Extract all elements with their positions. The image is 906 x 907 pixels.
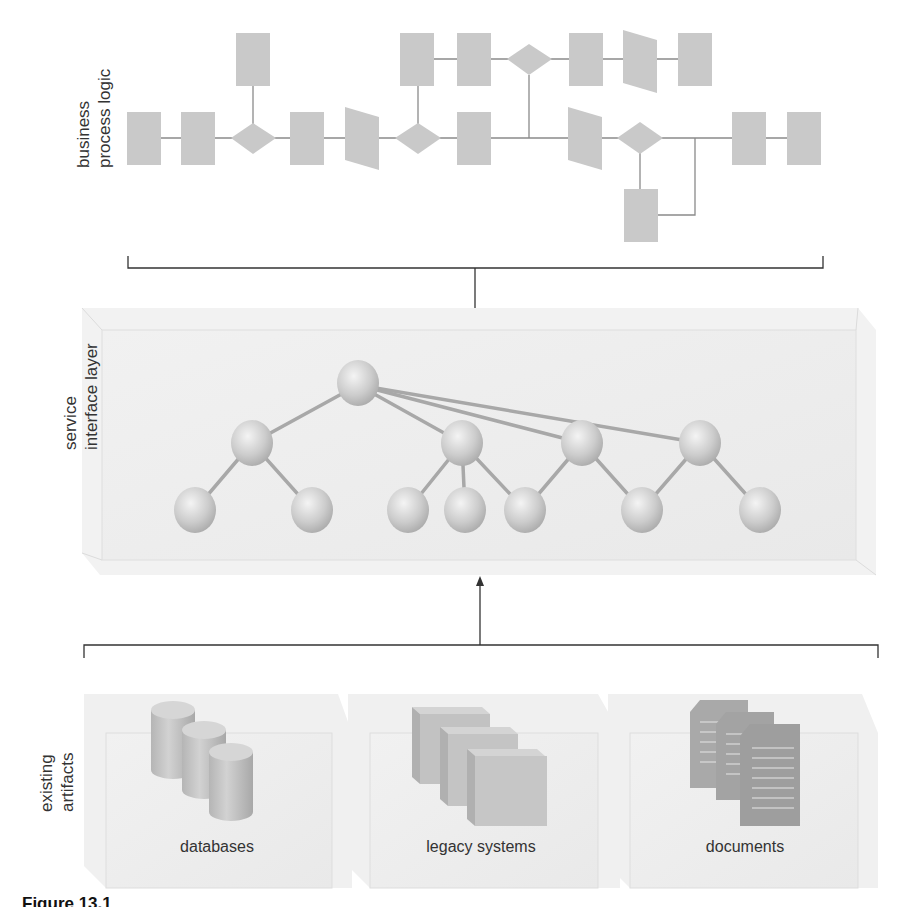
manual-input-step bbox=[568, 107, 602, 170]
service-node bbox=[441, 420, 483, 466]
service-node bbox=[174, 487, 216, 533]
process-step bbox=[290, 112, 324, 165]
process-step bbox=[624, 189, 658, 242]
business-process-flowchart: business process logic bbox=[74, 30, 821, 242]
manual-input-step bbox=[623, 30, 657, 93]
process-step bbox=[678, 33, 712, 86]
process-step bbox=[787, 112, 821, 165]
decision-diamond bbox=[507, 44, 552, 75]
service-node bbox=[739, 487, 781, 533]
artifact-label-legacy: legacy systems bbox=[426, 838, 535, 855]
bracket-from-artifacts bbox=[84, 584, 878, 658]
process-step bbox=[236, 33, 270, 86]
service-node bbox=[561, 420, 603, 466]
process-step bbox=[457, 112, 491, 165]
artifact-label-databases: databases bbox=[180, 838, 254, 855]
decision-diamond bbox=[395, 123, 441, 154]
decision-diamond bbox=[231, 123, 276, 154]
manual-input-step bbox=[345, 107, 379, 170]
service-node bbox=[231, 420, 273, 466]
figure-caption: Figure 13.1 bbox=[22, 894, 112, 907]
process-step bbox=[400, 33, 434, 86]
process-step bbox=[181, 112, 215, 165]
service-node bbox=[387, 487, 429, 533]
decision-diamond bbox=[617, 122, 663, 154]
service-node bbox=[444, 487, 486, 533]
architecture-diagram: business process logic service interface… bbox=[0, 0, 906, 907]
process-step bbox=[457, 33, 491, 86]
process-step bbox=[127, 112, 161, 165]
service-node bbox=[504, 487, 546, 533]
service-node bbox=[621, 487, 663, 533]
flow-shapes bbox=[127, 30, 821, 242]
layer-label-service: service interface layer bbox=[61, 343, 101, 450]
process-step bbox=[732, 112, 766, 165]
layer-label-artifacts: existing artifacts bbox=[37, 750, 77, 812]
arrow-up-icon bbox=[476, 576, 484, 586]
layer-label-business: business process logic bbox=[74, 68, 114, 168]
bracket-to-service-layer bbox=[128, 256, 823, 312]
artifact-label-documents: documents bbox=[706, 838, 784, 855]
service-node bbox=[291, 487, 333, 533]
service-node-root bbox=[337, 360, 379, 406]
process-step bbox=[569, 33, 603, 86]
service-node bbox=[679, 420, 721, 466]
